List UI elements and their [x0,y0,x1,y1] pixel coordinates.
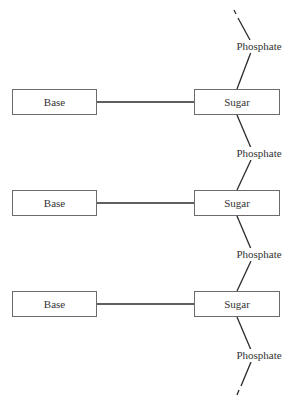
sugar-label: Sugar [224,96,250,108]
top-bond [238,18,250,40]
base-label: Base [44,96,65,108]
sugar-box-1: Sugar [194,89,280,115]
bond-p3-s3 [237,261,251,291]
phosphate-label-4: Phosphate [235,349,282,362]
sugar-label: Sugar [224,197,250,209]
base-box-2: Base [12,190,97,216]
base-box-3: Base [12,291,97,317]
bond-s3-p4 [237,317,251,350]
phosphate-label-1: Phosphate [235,40,282,53]
phosphate-label-2: Phosphate [235,147,282,160]
bond-s1-p2 [237,115,251,148]
top-dash [234,10,236,14]
bottom-bond [241,362,251,386]
sugar-box-2: Sugar [194,190,280,216]
bond-s2-p3 [237,216,251,249]
sugar-box-3: Sugar [194,291,280,317]
phosphate-label-3: Phosphate [235,248,282,261]
bottom-dash [237,390,239,395]
base-label: Base [44,197,65,209]
base-box-1: Base [12,89,97,115]
base-label: Base [44,298,65,310]
sugar-label: Sugar [224,298,250,310]
bond-p1-s1 [237,52,251,89]
bond-p2-s2 [237,160,251,190]
